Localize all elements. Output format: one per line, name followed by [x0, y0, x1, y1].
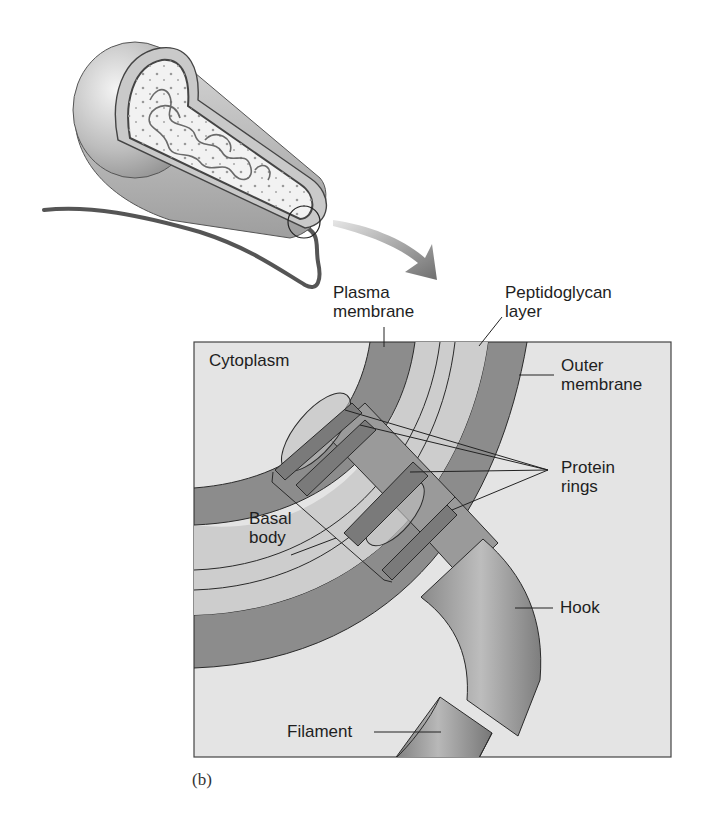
- label-outer-membrane: Outer membrane: [561, 356, 642, 394]
- label-hook: Hook: [560, 598, 600, 617]
- label-protein-rings: Protein rings: [561, 458, 615, 496]
- label-basal-body: Basal body: [249, 509, 292, 547]
- label-plasma-membrane: Plasma membrane: [333, 283, 414, 321]
- panel-caption: (b): [192, 770, 212, 790]
- flagellum-diagram: [0, 0, 713, 823]
- label-peptidoglycan-layer: Peptidoglycan layer: [505, 283, 612, 321]
- label-filament: Filament: [287, 722, 352, 741]
- label-cytoplasm: Cytoplasm: [209, 351, 289, 370]
- bacterium-cutaway: [44, 42, 326, 287]
- zoom-arrow: [333, 220, 437, 280]
